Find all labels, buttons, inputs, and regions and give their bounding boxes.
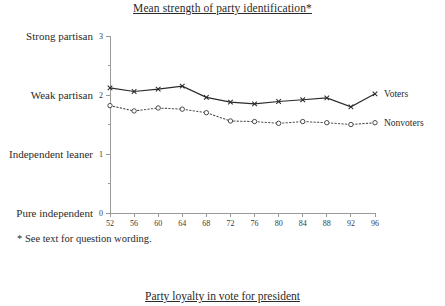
x-tick-label: 76	[251, 219, 259, 228]
x-tick-label: 80	[275, 219, 283, 228]
chart-footnote: * See text for question wording.	[17, 233, 152, 244]
data-point-marker	[301, 119, 305, 123]
data-point-marker	[156, 106, 160, 110]
x-tick-label: 84	[299, 219, 307, 228]
bottom-caption: Party loyalty in vote for president	[0, 290, 445, 302]
x-tick-label: 72	[226, 219, 234, 228]
series-line-nonvoters	[110, 106, 375, 125]
data-point-marker	[204, 111, 208, 115]
x-tick-label: 60	[154, 219, 162, 228]
y-tick-label: 0	[99, 209, 103, 218]
data-point-marker	[349, 122, 353, 126]
data-point-marker	[132, 109, 136, 113]
data-point-marker	[276, 121, 280, 125]
x-tick-label: 56	[130, 219, 138, 228]
y-category-label: Weak partisan	[31, 89, 94, 101]
x-tick-label: 96	[371, 219, 379, 228]
x-tick-label: 88	[323, 219, 331, 228]
data-point-marker	[228, 119, 232, 123]
y-category-label: Pure independent	[16, 207, 93, 219]
series-label-nonvoters: Nonvoters	[384, 118, 424, 128]
x-tick-label: 64	[178, 219, 186, 228]
y-category-label: Strong partisan	[26, 30, 93, 42]
data-point-marker	[108, 103, 112, 107]
data-point-marker	[325, 121, 329, 125]
figure-panel: Mean strength of party identification* 0…	[0, 0, 445, 306]
bottom-caption-text: Party loyalty in vote for president	[145, 290, 300, 302]
series-line-voters	[110, 86, 375, 107]
series-label-voters: Voters	[384, 89, 408, 99]
data-point-marker	[180, 107, 184, 111]
x-tick-label: 92	[347, 219, 355, 228]
line-chart: 0123Strong partisanWeak partisanIndepend…	[0, 0, 445, 306]
data-point-marker	[252, 119, 256, 123]
data-point-marker	[373, 92, 378, 97]
y-tick-label: 2	[99, 91, 103, 100]
x-tick-label: 68	[202, 219, 210, 228]
x-tick-label: 52	[106, 219, 114, 228]
y-tick-label: 3	[99, 32, 103, 41]
data-point-marker	[373, 121, 377, 125]
y-tick-label: 1	[99, 150, 103, 159]
y-category-label: Independent leaner	[9, 148, 93, 160]
